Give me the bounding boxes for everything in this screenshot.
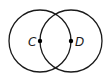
diagram-canvas: C D bbox=[0, 0, 107, 82]
label-d: D bbox=[75, 35, 84, 49]
point-d bbox=[69, 39, 73, 43]
point-c bbox=[38, 39, 42, 43]
label-c: C bbox=[28, 35, 37, 49]
